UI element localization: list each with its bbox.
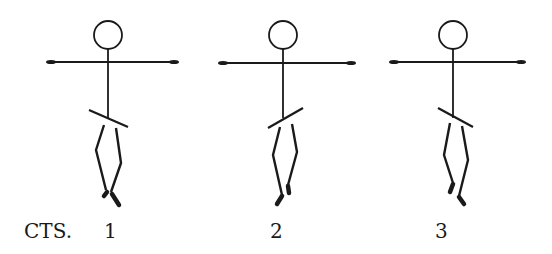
right-hand	[516, 60, 526, 64]
stick-figure-3: 3	[389, 21, 526, 243]
hip-line	[438, 108, 473, 127]
count-label-3: 3	[435, 219, 448, 243]
left-leg	[444, 123, 453, 183]
right-foot	[112, 194, 119, 205]
left-foot	[450, 184, 453, 192]
hip-line	[268, 108, 303, 128]
counts-prefix-label: CTS.	[24, 219, 72, 243]
left-leg	[273, 127, 282, 195]
figures-svg: 123 CTS.	[0, 0, 552, 254]
head	[269, 21, 297, 49]
right-hand	[346, 61, 356, 65]
left-leg	[96, 125, 106, 190]
right-foot	[288, 186, 289, 193]
right-leg	[111, 128, 121, 192]
left-hand	[389, 60, 399, 64]
figures-group: 123	[46, 21, 526, 243]
right-leg	[459, 126, 468, 196]
head	[439, 21, 467, 49]
count-label-1: 1	[104, 219, 117, 243]
stick-figure-1: 1	[46, 21, 179, 243]
stick-figure-diagram: 123 CTS.	[0, 0, 552, 254]
stick-figure-2: 2	[218, 21, 356, 243]
head	[94, 21, 122, 49]
right-leg	[288, 124, 297, 185]
count-label-2: 2	[270, 219, 283, 243]
right-hand	[169, 60, 179, 64]
left-foot	[277, 196, 282, 204]
left-hand	[218, 61, 228, 65]
left-hand	[46, 60, 56, 64]
right-foot	[459, 197, 464, 204]
left-foot	[104, 192, 107, 196]
